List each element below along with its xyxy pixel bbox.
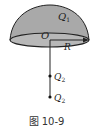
point-charge-dot xyxy=(48,95,51,98)
figure-caption: 图 10-9 xyxy=(0,113,93,128)
center-label: O xyxy=(41,30,49,41)
point-charge-label: Q2 xyxy=(54,93,65,104)
point-charge-dot xyxy=(48,74,51,77)
point-charge-label: Q2 xyxy=(54,72,65,83)
radius-label: R xyxy=(63,42,71,52)
